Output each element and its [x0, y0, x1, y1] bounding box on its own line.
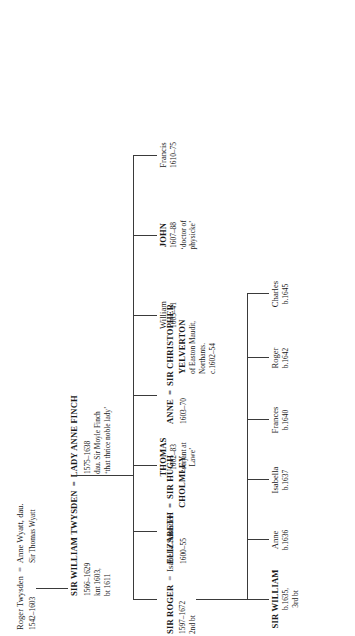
elizabeth-dates: 1600–55 — [179, 538, 188, 564]
frances-1640-name: Frances — [270, 392, 281, 448]
node-william: William 1605–41 — [158, 286, 179, 344]
connector-roger-down — [196, 599, 248, 600]
anne-wyatt-name: Anne Wyatt, dau. — [15, 503, 25, 563]
connector-anne-1636 — [247, 539, 269, 540]
connector-frances-1640 — [247, 419, 269, 420]
node-charles-1645: Charles b.1645 — [270, 266, 291, 322]
lady-anne-finch-dates: 1575–1638 — [83, 406, 93, 474]
charles-1645-name: Charles — [270, 266, 281, 322]
roger-twysden-name: Roger Twysden — [15, 576, 25, 630]
charles-1645-dates: b.1645 — [281, 266, 291, 322]
marriage-equals-elizabeth: = — [165, 503, 175, 508]
yelverton-surname: YELVERTON — [177, 319, 188, 374]
sir-william-3rd-dates: b.1635, — [281, 564, 291, 634]
thomas-dates: 1602–83 — [169, 426, 179, 488]
isabella-1637-dates: b.1637 — [281, 452, 291, 508]
connector-isabella-1637 — [247, 479, 269, 480]
node-francis: Francis 1610–75 — [158, 126, 179, 184]
node-sir-william-twysden: SIR WILLIAM TWYSDEN = LADY ANNE FINCH 15… — [62, 336, 116, 596]
john-name: JOHN — [158, 206, 169, 264]
thomas-name: THOMAS — [158, 426, 169, 488]
anne-yelverton-name: ANNE — [165, 399, 175, 424]
anne-wyatt-father: Sir Thomas Wyatt — [28, 510, 37, 563]
isabella-1637-name: Isabella — [270, 452, 281, 508]
sir-william-3rd-note1: 3rd bt — [291, 564, 301, 634]
elizabeth-name: ELIZABETH — [165, 512, 175, 564]
yelverton-dates: c.1602–54 — [208, 319, 218, 374]
francis-dates: 1610–75 — [169, 126, 179, 184]
node-roger-twysden-anne-wyatt: Roger Twysden = Anne Wyatt, dau. 1542–16… — [8, 440, 38, 630]
connector-john — [133, 235, 157, 236]
william-name: William — [158, 286, 169, 344]
sir-william-twysden-note1: knt 1603, — [93, 563, 103, 596]
anne-yelverton-dates: 1603–70 — [179, 398, 188, 424]
roger-1642-dates: b.1642 — [281, 330, 291, 386]
node-sir-william-3rd-bt: SIR WILLIAM b.1635, 3rd bt — [270, 564, 300, 634]
sir-william-twysden-note2: bt 1611 — [103, 563, 113, 596]
node-roger-1642: Roger b.1642 — [270, 330, 291, 386]
sibling-bus-gen2 — [133, 156, 134, 600]
john-dates: 1607–88 — [169, 206, 179, 264]
connector-elizabeth — [133, 531, 157, 532]
node-frances-1640: Frances b.1640 — [270, 392, 291, 448]
john-note1: ‘doctor of — [179, 206, 189, 264]
connector-roger-1642 — [247, 357, 269, 358]
connector-thomas — [133, 465, 157, 466]
lady-anne-finch-note2: ‘that thrice noble lady’ — [103, 406, 113, 474]
roger-1642-name: Roger — [270, 330, 281, 386]
node-john: JOHN 1607–88 ‘doctor of physicke’ — [158, 206, 198, 264]
family-tree-chart: Roger Twysden = Anne Wyatt, dau. 1542–16… — [0, 0, 355, 636]
francis-name: Francis — [158, 126, 169, 184]
lady-anne-finch-note1: dau. Sir Moyle Finch — [93, 406, 103, 474]
sibling-bus-gen3 — [247, 294, 248, 600]
connector-francis — [133, 155, 157, 156]
node-thomas: THOMAS 1602–83 ‘serjant at Lawe’ — [158, 426, 198, 488]
sir-william-3rd-name: SIR WILLIAM — [270, 564, 281, 634]
sir-william-twysden-name: SIR WILLIAM TWYSDEN — [69, 490, 79, 596]
connector-william — [133, 315, 157, 316]
connector-sir-roger — [133, 599, 157, 600]
thomas-note2: Lawe’ — [188, 426, 198, 488]
anne-1636-name: Anne — [270, 512, 281, 568]
connector-gen1-down — [72, 475, 134, 476]
chart-rotation-wrapper: Roger Twysden = Anne Wyatt, dau. 1542–16… — [0, 0, 355, 636]
anne-1636-dates: b.1636 — [281, 512, 291, 568]
node-isabella-1637: Isabella b.1637 — [270, 452, 291, 508]
marriage-equals-1: = — [69, 481, 79, 486]
lady-anne-finch-name: LADY ANNE FINCH — [69, 395, 79, 477]
marriage-equals-0: = — [15, 567, 25, 572]
john-note2: physicke’ — [188, 206, 198, 264]
marriage-equals-anne: = — [165, 390, 175, 395]
marriage-equals-roger: = — [165, 576, 175, 581]
william-dates: 1605–41 — [169, 286, 179, 344]
node-anne-1636: Anne b.1636 — [270, 512, 291, 568]
sir-william-twysden-dates: 1566–1629 — [83, 563, 93, 596]
frances-1640-dates: b.1640 — [281, 392, 291, 448]
connector-sir-william-3rd — [247, 599, 269, 600]
yelverton-note2: Northants. — [198, 319, 208, 374]
connector-charles-1645 — [247, 293, 269, 294]
yelverton-note1: of Easton Maudit, — [188, 319, 198, 374]
sir-roger-name: SIR ROGER — [165, 585, 175, 634]
connector-anne-yelverton — [133, 395, 157, 396]
thomas-note1: ‘serjant at — [179, 426, 189, 488]
roger-twysden-dates: 1542–1603 — [28, 597, 37, 630]
